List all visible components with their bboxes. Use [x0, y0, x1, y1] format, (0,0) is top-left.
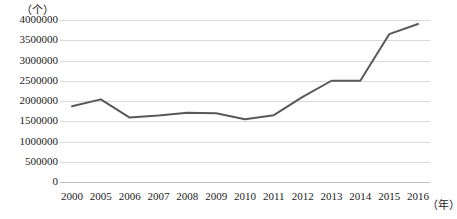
y-axis-tick-label: 2000000: [2, 95, 58, 106]
y-axis-tick-label: 0: [2, 176, 58, 187]
x-axis-tick-label: 2009: [205, 190, 227, 202]
gridline: [60, 182, 430, 183]
y-axis-tick-label: 3500000: [2, 34, 58, 45]
y-axis-tick-label: 1000000: [2, 136, 58, 147]
series-line-svg: [60, 20, 430, 182]
x-axis-unit-label: （年）: [427, 196, 457, 212]
x-axis-tick-label: 2008: [176, 190, 198, 202]
x-axis-tick-label: 2006: [119, 190, 141, 202]
x-axis-tick-label: 2000: [61, 190, 83, 202]
line-chart: （个） 400000035000003000000250000020000001…: [0, 0, 457, 219]
y-axis-tick-label: 3000000: [2, 55, 58, 66]
x-axis-tick-label: 2015: [378, 190, 400, 202]
x-axis-tick-label: 2010: [234, 190, 256, 202]
x-axis-tick-label: 2005: [90, 190, 112, 202]
x-axis-tick-label: 2012: [292, 190, 314, 202]
x-axis-tick-labels: 2000200520062007200820092010201120122013…: [60, 190, 430, 210]
y-axis-tick-label: 500000: [2, 156, 58, 167]
x-axis-tick-label: 2014: [349, 190, 371, 202]
x-axis-tick-label: 2007: [148, 190, 170, 202]
plot-area: [60, 20, 430, 182]
y-axis-tick-labels: 4000000350000030000002500000200000015000…: [0, 0, 58, 219]
x-axis-tick-label: 2011: [263, 190, 285, 202]
y-axis-tick-label: 4000000: [2, 14, 58, 25]
y-axis-tick-label: 2500000: [2, 75, 58, 86]
x-axis-tick-label: 2013: [321, 190, 343, 202]
x-axis-tick-label: 2016: [407, 190, 429, 202]
data-series-line: [72, 24, 418, 119]
y-axis-tick-label: 1500000: [2, 115, 58, 126]
